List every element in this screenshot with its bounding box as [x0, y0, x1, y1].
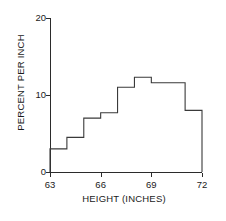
y-axis-line	[50, 18, 51, 173]
histogram-outline-path	[50, 77, 202, 172]
histogram-chart: PERCENT PER INCH 20 10 0 63666972 HEIGHT…	[0, 0, 226, 221]
x-tick-mark-69	[151, 173, 152, 177]
y-tick-label-10: 10	[24, 90, 46, 100]
x-tick-label-72: 72	[190, 179, 214, 190]
x-axis-line	[50, 172, 202, 173]
x-tick-label-66: 66	[89, 179, 113, 190]
y-tick-label-0: 0	[24, 167, 46, 177]
y-axis-title: PERCENT PER INCH	[14, 5, 28, 160]
x-tick-label-63: 63	[38, 179, 62, 190]
x-tick-label-69: 69	[139, 179, 163, 190]
x-tick-mark-72	[202, 173, 203, 177]
x-axis-title: HEIGHT (INCHES)	[34, 193, 214, 204]
x-tick-mark-66	[101, 173, 102, 177]
y-tick-label-20: 20	[24, 13, 46, 23]
x-tick-mark-63	[50, 173, 51, 177]
